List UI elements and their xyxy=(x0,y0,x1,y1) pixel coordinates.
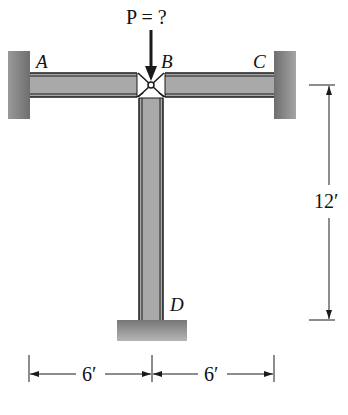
point-label-d: D xyxy=(170,295,184,314)
beam-ab xyxy=(30,73,137,97)
point-label-c: C xyxy=(253,52,266,71)
span-dimensions xyxy=(29,355,274,382)
beam-bc xyxy=(165,73,274,97)
point-label-a: A xyxy=(36,52,48,71)
left-span-label: 6′ xyxy=(80,364,98,384)
load-arrow-icon xyxy=(145,30,157,81)
frame-diagram xyxy=(0,0,348,415)
load-label: P = ? xyxy=(126,7,167,27)
column-bd xyxy=(139,98,163,320)
right-wall-support xyxy=(274,51,296,119)
height-dimension-label: 12′ xyxy=(312,191,340,211)
point-label-b: B xyxy=(161,52,173,71)
right-span-label: 6′ xyxy=(202,364,220,384)
left-wall-support xyxy=(8,51,30,119)
base-support xyxy=(117,320,187,341)
